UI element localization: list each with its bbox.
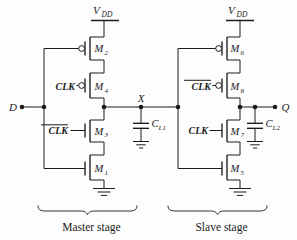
slave-stage: V DD M 6 CLK M bbox=[168, 4, 290, 234]
vdd-label-master: V bbox=[93, 4, 101, 16]
node-x: X bbox=[102, 92, 181, 110]
cl1-sub: L1 bbox=[158, 124, 166, 132]
m8-label: M bbox=[230, 81, 241, 92]
q-axis-junction-dot bbox=[238, 105, 243, 110]
m5-label: M bbox=[230, 163, 241, 174]
clk-label-m4: CLK bbox=[56, 81, 77, 92]
vdd-rail-master: V DD bbox=[91, 4, 119, 37]
input-bus-master: D bbox=[8, 49, 46, 169]
capacitor-cl1: C L1 bbox=[133, 107, 166, 148]
m3-sub: 3 bbox=[104, 131, 109, 139]
x-axis-junction-dot bbox=[102, 105, 107, 110]
flipflop-schematic: V DD D M 2 bbox=[0, 0, 297, 240]
m1-label: M bbox=[94, 163, 105, 174]
m1-sub: 1 bbox=[105, 169, 109, 177]
slave-stage-label: Slave stage bbox=[195, 221, 247, 234]
vdd-sub-master: DD bbox=[101, 10, 113, 19]
d-terminal-dot bbox=[20, 105, 25, 110]
vdd-sub-slave: DD bbox=[236, 10, 248, 19]
clk-label-m7: CLK bbox=[189, 125, 210, 136]
m7-label: M bbox=[230, 126, 241, 137]
transistor-m4-pmos: CLK M 4 bbox=[56, 60, 109, 98]
slave-stage-brace: Slave stage bbox=[168, 206, 267, 234]
m4-sub: 4 bbox=[105, 87, 109, 95]
m4-label: M bbox=[94, 81, 105, 92]
transistor-m2-pmos: M 2 bbox=[44, 37, 109, 60]
master-stage-brace: Master stage bbox=[38, 206, 137, 234]
pmos-bubble-m2 bbox=[79, 46, 85, 52]
ground-master bbox=[93, 180, 115, 195]
cl2-sub: L2 bbox=[272, 124, 281, 132]
node-q: Q bbox=[238, 98, 290, 113]
master-stage-label: Master stage bbox=[62, 221, 120, 234]
master-stage: V DD D M 2 bbox=[8, 4, 180, 234]
d-bus-junction-dot bbox=[42, 105, 47, 110]
q-terminal-dot bbox=[273, 105, 278, 110]
transistor-m1-nmos: M 1 bbox=[44, 142, 108, 180]
x-node-label: X bbox=[137, 92, 146, 104]
clkbar-label-m3: CLK bbox=[49, 125, 70, 136]
ground-slave bbox=[229, 180, 251, 195]
pmos-bubble-m4 bbox=[79, 83, 85, 89]
transistor-m8-pmos: CLK M 8 bbox=[184, 60, 245, 98]
transistor-m7-nmos: CLK M 7 bbox=[189, 107, 245, 142]
transistor-m3-nmos: CLK M 3 bbox=[41, 107, 109, 142]
m8-sub: 8 bbox=[241, 87, 245, 95]
m5-sub: 5 bbox=[241, 169, 245, 177]
transistor-m5-nmos: M 5 bbox=[178, 142, 245, 180]
d-input-label: D bbox=[8, 101, 17, 113]
pmos-bubble-m8 bbox=[216, 83, 222, 89]
m7-sub: 7 bbox=[241, 131, 245, 139]
m6-sub: 6 bbox=[241, 49, 245, 57]
m2-label: M bbox=[94, 43, 105, 54]
vdd-rail-slave: V DD bbox=[226, 4, 254, 37]
m2-sub: 2 bbox=[105, 49, 109, 57]
vdd-label-slave: V bbox=[228, 4, 236, 16]
m6-label: M bbox=[230, 43, 241, 54]
q-node-label: Q bbox=[282, 101, 290, 113]
clkbar-label-m8: CLK bbox=[192, 81, 213, 92]
m3-label: M bbox=[94, 126, 105, 137]
transistor-m6-pmos: M 6 bbox=[178, 37, 245, 60]
capacitor-cl2: C L2 bbox=[247, 107, 280, 148]
pmos-bubble-m6 bbox=[216, 46, 222, 52]
